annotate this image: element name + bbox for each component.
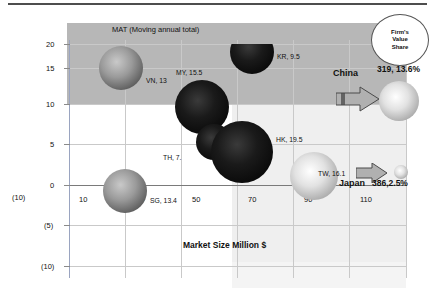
- y-tick--5: [64, 225, 70, 226]
- china-label: China: [333, 68, 358, 78]
- x-tick-label--10: (10): [12, 194, 25, 202]
- bubble-kr[interactable]: [230, 44, 274, 74]
- gridline-y--5: [69, 225, 407, 226]
- slide-top-rule: [8, 3, 427, 5]
- bubble-label-tw: TW, 16.1: [318, 170, 345, 177]
- x-axis-title: Market Size Million $: [183, 240, 266, 250]
- japan-label: Japan: [339, 178, 365, 188]
- x-tick-label-70: 70: [248, 196, 256, 204]
- slide-canvas: 20 15 10 5 0 (5) (10) (10) 10 30 50 70 9…: [0, 0, 435, 296]
- firm-value-share-callout: Firm's Value Share: [371, 14, 429, 66]
- y-tick-10: [64, 104, 70, 105]
- bubble-japan-reference[interactable]: [394, 165, 408, 179]
- y-tick-20: [64, 44, 70, 45]
- bubble-label-hk: HK, 19.5: [276, 136, 302, 143]
- bubble-label-th: TH, 7.: [163, 154, 182, 161]
- bubble-sg[interactable]: [103, 169, 147, 213]
- gridline-x-70: [293, 40, 294, 278]
- y-tick-label-0: 0: [50, 182, 54, 190]
- bubble-label-my: MY, 15.5: [176, 69, 202, 76]
- y-tick-label-20: 20: [46, 41, 54, 49]
- y-tick-15: [64, 68, 70, 69]
- y-tick-0: [64, 185, 70, 186]
- y-tick--10: [64, 266, 70, 267]
- x-tick-label-110: 110: [360, 196, 372, 204]
- bubble-hk[interactable]: [211, 121, 273, 183]
- x-tick-label-50: 50: [192, 196, 200, 204]
- y-tick-label-10: 10: [46, 101, 54, 109]
- bubble-vn[interactable]: [99, 46, 143, 90]
- china-arrow-icon: [336, 86, 380, 112]
- bubble-china-reference[interactable]: [379, 81, 419, 121]
- y-tick-label-15: 15: [46, 65, 54, 73]
- bubble-label-kr: KR, 9.5: [277, 53, 300, 60]
- y-tick-label-5: 5: [50, 141, 54, 149]
- x-tick-label-10: 10: [79, 196, 87, 204]
- japan-value-label: 386,2.5%: [372, 178, 408, 188]
- gridline-y--10: [69, 266, 407, 267]
- y-tick-5: [64, 144, 70, 145]
- callout-line-2: Value: [392, 36, 408, 42]
- bubble-kr-clip: [230, 44, 274, 74]
- mat-band-label: MAT (Moving annual total): [112, 25, 199, 34]
- bubble-label-vn: VN, 13: [146, 77, 167, 84]
- callout-line-1: Firm's: [391, 29, 409, 35]
- gridline-x-110: [406, 40, 407, 278]
- bubble-label-sg: SG, 13.4: [150, 197, 177, 204]
- y-axis-line: [69, 40, 70, 278]
- y-tick-label--10: (10): [41, 263, 54, 271]
- china-value-label: 319, 13.6%: [377, 64, 420, 74]
- callout-line-3: Share: [392, 44, 409, 50]
- y-tick-label--5: (5): [44, 222, 53, 230]
